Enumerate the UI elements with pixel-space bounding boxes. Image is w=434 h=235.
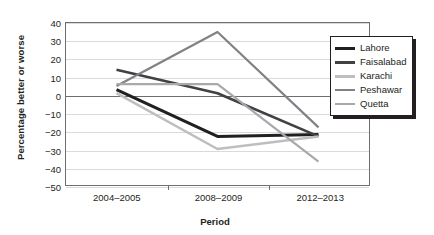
x-tick-mark: [269, 185, 270, 190]
y-axis-title: Percentage better or worse: [15, 8, 26, 188]
legend-swatch-icon: [335, 47, 355, 50]
series-line-karachi: [117, 93, 319, 149]
legend-item-quetta[interactable]: Quetta: [335, 97, 406, 111]
legend-item-label: Karachi: [360, 71, 392, 81]
x-tick-mark: [168, 185, 169, 190]
legend-item-label: Peshawar: [360, 85, 402, 95]
y-tick-label: −10: [45, 109, 61, 120]
y-tick-label: 10: [50, 72, 61, 83]
legend-swatch-icon: [335, 103, 355, 105]
legend-item-peshawar[interactable]: Peshawar: [335, 83, 406, 97]
y-tick-label: 0: [56, 90, 61, 101]
legend-swatch-icon: [335, 75, 355, 78]
series-line-lahore: [117, 90, 319, 137]
legend-item-karachi[interactable]: Karachi: [335, 69, 406, 83]
x-tick-label: 2008–2009: [195, 192, 243, 203]
y-tick-label: 40: [50, 18, 61, 29]
legend-item-lahore[interactable]: Lahore: [335, 41, 406, 55]
series-line-peshawar: [117, 32, 319, 127]
chart-legend: LahoreFaisalabadKarachiPeshawarQuetta: [330, 36, 413, 116]
legend-item-label: Quetta: [360, 99, 389, 109]
legend-item-faisalabad[interactable]: Faisalabad: [335, 55, 406, 69]
x-tick-label: 2004–2005: [93, 192, 141, 203]
y-tick-label: −50: [45, 182, 61, 193]
legend-swatch-icon: [335, 61, 355, 64]
legend-item-label: Faisalabad: [360, 57, 406, 67]
chart-figure: Percentage better or worse 403020100−10−…: [0, 0, 434, 235]
legend-item-label: Lahore: [360, 43, 390, 53]
y-tick-label: −20: [45, 127, 61, 138]
x-tick-label: 2012–2013: [296, 192, 344, 203]
y-tick-label: −40: [45, 163, 61, 174]
series-lines: [66, 23, 369, 185]
y-tick-label: −30: [45, 145, 61, 156]
x-axis-title: Period: [60, 216, 370, 227]
gridline: [66, 187, 369, 188]
y-tick-label: 20: [50, 54, 61, 65]
plot-area: 403020100−10−20−30−40−50 2004–20052008–2…: [65, 22, 370, 186]
y-tick-label: 30: [50, 36, 61, 47]
legend-swatch-icon: [335, 89, 355, 91]
